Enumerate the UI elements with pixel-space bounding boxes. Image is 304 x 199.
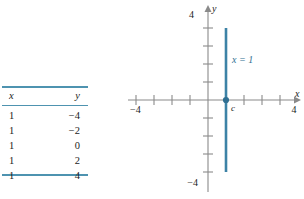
figure-root: x y 1 −4 1 −2 1 0 1 2 1 4 — [0, 0, 304, 199]
column-header-y: y — [38, 90, 80, 101]
y-axis — [203, 5, 213, 192]
y-axis-label: y — [211, 3, 217, 14]
table-header-rule — [2, 105, 88, 106]
cell-x: 1 — [9, 125, 14, 136]
cell-y: 4 — [38, 170, 80, 181]
y-tick-label-top: 4 — [189, 9, 194, 20]
value-table: x y 1 −4 1 −2 1 0 1 2 1 4 — [0, 86, 88, 190]
cell-x: 1 — [9, 170, 14, 181]
cell-x: 1 — [9, 140, 14, 151]
equation-annotation: x = 1 — [231, 54, 253, 65]
table-row: 1 0 — [0, 140, 88, 155]
table-row: 1 −4 — [0, 110, 88, 125]
x-tick-label-left: −4 — [130, 104, 141, 115]
table-row: 1 −2 — [0, 125, 88, 140]
cell-x: 1 — [9, 155, 14, 166]
x-axis-label: x — [294, 88, 300, 99]
cell-x: 1 — [9, 110, 14, 121]
cell-y: −2 — [38, 125, 80, 136]
cell-y: 0 — [38, 140, 80, 151]
point-c-label: c — [231, 103, 235, 113]
column-header-x: x — [9, 90, 14, 101]
table-row: 1 2 — [0, 155, 88, 170]
table-top-rule — [2, 86, 88, 88]
cell-y: 2 — [38, 155, 80, 166]
x-axis — [128, 95, 301, 105]
cell-y: −4 — [38, 110, 80, 121]
table-header-row: x y — [0, 90, 88, 105]
x-tick-label-right: 4 — [292, 104, 297, 115]
coordinate-graph: x y 4 −4 −4 4 x = 1 c — [128, 0, 304, 199]
table-row: 1 4 — [0, 170, 88, 185]
y-tick-label-bottom: −4 — [187, 177, 198, 188]
point-c — [223, 97, 229, 103]
